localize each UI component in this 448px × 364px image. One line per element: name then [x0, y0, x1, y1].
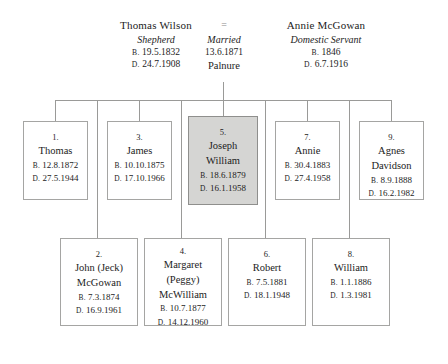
- person-9-death-value: 16.2.1982: [379, 188, 415, 198]
- person-box-8[interactable]: 8. William B. 1.1.1886 D. 1.3.1981: [312, 238, 390, 326]
- person-4-birth: B. 10.7.1877: [145, 302, 221, 316]
- person-2-birth-label: B.: [78, 293, 85, 302]
- person-5-death-value: 16.1.1958: [210, 183, 246, 193]
- marriage-place: Palnure: [194, 59, 254, 73]
- marriage-date: 13.6.1871: [194, 46, 254, 59]
- person-5-birth: B. 18.6.1879: [189, 169, 257, 183]
- person-1-number: 1.: [24, 131, 87, 144]
- spine-line-8: [349, 100, 350, 238]
- person-box-2[interactable]: 2. John (Jeck) McGowan B. 7.3.1874 D. 16…: [60, 238, 138, 326]
- marriage-descent-line: [223, 82, 224, 101]
- parent-mother: Annie McGowan Domestic Servant B. 1846 D…: [258, 18, 394, 71]
- father-death-value: 24.7.1908: [142, 59, 180, 69]
- person-5-birth-value: 18.6.1879: [210, 170, 246, 180]
- person-1-name-line-1: Thomas: [24, 144, 87, 159]
- drop-to-box-3: [139, 100, 140, 121]
- mother-name: Annie McGowan: [258, 18, 394, 33]
- person-1-death-label: D.: [32, 174, 40, 183]
- drop-to-box-1: [55, 100, 56, 121]
- person-5-birth-label: B.: [200, 171, 207, 180]
- spine-line-4: [181, 100, 182, 238]
- person-3-death: D. 17.10.1966: [108, 172, 171, 186]
- person-9-name-line-2: Davidson: [360, 159, 423, 174]
- person-9-number: 9.: [360, 131, 423, 144]
- person-4-death: D. 14.12.1960: [145, 316, 221, 330]
- person-8-birth-value: 1.1.1886: [340, 277, 372, 287]
- father-death-label: D.: [132, 60, 140, 69]
- person-5-death-label: D.: [200, 184, 208, 193]
- drop-to-box-5: [223, 100, 224, 116]
- person-4-name-line-2: (Peggy): [145, 273, 221, 288]
- marriage-block: Married 13.6.1871 Palnure: [194, 33, 254, 73]
- person-4-name-line-3: McWilliam: [145, 288, 221, 303]
- person-9-death-label: D.: [368, 189, 376, 198]
- person-3-birth-value: 10.10.1875: [124, 160, 165, 170]
- person-6-death-label: D.: [244, 291, 252, 300]
- person-7-name-line-1: Annie: [276, 144, 339, 159]
- person-5-death: D. 16.1.1958: [189, 182, 257, 196]
- mother-occupation: Domestic Servant: [258, 33, 394, 46]
- person-3-birth-label: B.: [114, 161, 121, 170]
- person-7-number: 7.: [276, 131, 339, 144]
- person-9-death: D. 16.2.1982: [360, 187, 423, 201]
- person-5-name-line-1: Joseph: [189, 139, 257, 154]
- person-box-1[interactable]: 1. Thomas B. 12.8.1872 D. 27.5.1944: [23, 121, 88, 200]
- person-2-birth: B. 7.3.1874: [61, 291, 137, 305]
- person-1-birth: B. 12.8.1872: [24, 159, 87, 173]
- person-8-death-label: D.: [330, 291, 338, 300]
- person-4-death-label: D.: [158, 318, 166, 327]
- person-3-number: 3.: [108, 131, 171, 144]
- person-6-number: 6.: [229, 248, 305, 261]
- person-6-name-line-1: Robert: [229, 261, 305, 276]
- person-box-3[interactable]: 3. James B. 10.10.1875 D. 17.10.1966: [107, 121, 172, 200]
- person-2-death-value: 16.9.1961: [86, 305, 122, 315]
- person-2-death-label: D.: [76, 306, 84, 315]
- mother-birth-label: B.: [311, 48, 319, 57]
- person-8-number: 8.: [313, 248, 389, 261]
- person-7-birth-label: B.: [285, 161, 292, 170]
- father-birth-label: B.: [132, 48, 140, 57]
- person-9-birth-label: B.: [371, 176, 378, 185]
- mother-birth-value: 1846: [322, 47, 341, 57]
- person-1-death: D. 27.5.1944: [24, 172, 87, 186]
- person-4-birth-value: 10.7.1877: [170, 303, 206, 313]
- person-box-6[interactable]: 6. Robert B. 7.5.1881 D. 18.1.1948: [228, 238, 306, 326]
- marriage-equals-symbol: =: [194, 19, 254, 30]
- person-3-death-label: D.: [114, 174, 122, 183]
- person-5-number: 5.: [189, 126, 257, 139]
- person-8-name-line-1: William: [313, 261, 389, 276]
- mother-death-value: 6.7.1916: [315, 59, 348, 69]
- family-tree-chart: Thomas Wilson Shepherd B. 19.5.1832 D. 2…: [0, 0, 448, 364]
- person-6-birth-label: B.: [246, 278, 253, 287]
- person-7-birth: B. 30.4.1883: [276, 159, 339, 173]
- person-9-birth: B. 8.9.1888: [360, 174, 423, 188]
- person-1-death-value: 27.5.1944: [43, 173, 79, 183]
- person-6-death: D. 18.1.1948: [229, 289, 305, 303]
- person-7-death: D. 27.4.1958: [276, 172, 339, 186]
- drop-to-box-7: [307, 100, 308, 121]
- person-box-5[interactable]: 5. Joseph William B. 18.6.1879 D. 16.1.1…: [188, 116, 258, 205]
- person-2-name-line-2: McGowan: [61, 276, 137, 291]
- person-4-number: 4.: [145, 245, 221, 258]
- spine-line-2: [97, 100, 98, 238]
- person-3-birth: B. 10.10.1875: [108, 159, 171, 173]
- person-1-birth-label: B.: [33, 161, 40, 170]
- mother-birth: B. 1846: [258, 46, 394, 59]
- person-box-7[interactable]: 7. Annie B. 30.4.1883 D. 27.4.1958: [275, 121, 340, 200]
- father-birth-value: 19.5.1832: [142, 47, 180, 57]
- person-2-name-line-1: John (Jeck): [61, 261, 137, 276]
- person-6-birth-value: 7.5.1881: [256, 277, 288, 287]
- mother-death: D. 6.7.1916: [258, 58, 394, 71]
- person-box-9[interactable]: 9. Agnes Davidson B. 8.9.1888 D. 16.2.19…: [359, 121, 424, 200]
- person-box-4[interactable]: 4. Margaret (Peggy) McWilliam B. 10.7.18…: [144, 238, 222, 326]
- marriage-label: Married: [194, 33, 254, 46]
- person-6-birth: B. 7.5.1881: [229, 276, 305, 290]
- person-7-death-label: D.: [284, 174, 292, 183]
- person-4-name-line-1: Margaret: [145, 258, 221, 273]
- person-2-birth-value: 7.3.1874: [88, 292, 120, 302]
- drop-to-box-9: [391, 100, 392, 121]
- person-9-birth-value: 8.9.1888: [381, 175, 413, 185]
- person-8-death-value: 1.3.1981: [340, 290, 372, 300]
- person-4-birth-label: B.: [160, 304, 167, 313]
- person-3-death-value: 17.10.1966: [124, 173, 165, 183]
